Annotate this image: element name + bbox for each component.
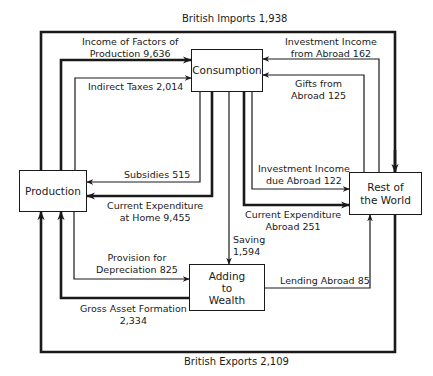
label-british-imports: British Imports 1,938: [182, 13, 287, 25]
node-production: Production: [19, 170, 87, 212]
node-rest-of-world-line2: the World: [360, 194, 411, 207]
node-adding-to-wealth: Adding to Wealth: [189, 264, 265, 311]
node-consumption-label: Consumption: [192, 64, 262, 77]
label-cea-line1: Current Expenditure: [245, 209, 341, 221]
label-gifts-line2: Abroad 125: [291, 90, 346, 102]
flow-investment-income-from-abroad: [263, 59, 379, 172]
label-ceh-line1: Current Expenditure: [107, 200, 203, 212]
label-cea-line2: Abroad 251: [245, 221, 341, 233]
label-saving: Saving 1,594: [233, 234, 265, 258]
node-adding-line3: Wealth: [209, 294, 245, 306]
label-iida-line2: due Abroad 122: [258, 175, 350, 187]
node-production-label: Production: [25, 185, 81, 198]
node-rest-of-world-line1: Rest of: [367, 181, 403, 194]
label-gaf-line2: 2,334: [80, 315, 187, 327]
node-adding-line2: to: [222, 282, 233, 294]
label-income-of-factors: Income of Factors of Production 9,636: [82, 36, 178, 60]
label-investment-income-due-abroad: Investment Income due Abroad 122: [258, 163, 350, 187]
label-ceh-line2: at Home 9,455: [107, 212, 203, 224]
node-consumption: Consumption: [191, 49, 263, 92]
node-adding-line1: Adding: [209, 270, 246, 282]
label-gifts-from-abroad: Gifts from Abroad 125: [291, 78, 346, 102]
label-current-expenditure-home: Current Expenditure at Home 9,455: [107, 200, 203, 224]
flow-current-expenditure-abroad: [244, 92, 349, 205]
label-pfd-line1: Provision for: [96, 252, 178, 264]
label-indirect-taxes: Indirect Taxes 2,014: [88, 81, 183, 93]
label-iifa-line1: Investment Income: [285, 36, 377, 48]
label-gifts-line1: Gifts from: [291, 78, 346, 90]
label-gross-asset-formation: Gross Asset Formation 2,334: [80, 303, 187, 327]
label-british-exports: British Exports 2,109: [184, 356, 289, 368]
label-saving-line2: 1,594: [233, 246, 265, 258]
label-saving-line1: Saving: [233, 234, 265, 246]
label-provision-for-depreciation: Provision for Depreciation 825: [96, 252, 178, 276]
label-investment-income-from-abroad: Investment Income from Abroad 162: [285, 36, 377, 60]
label-gaf-line1: Gross Asset Formation: [80, 303, 187, 315]
label-subsidies: Subsidies 515: [124, 169, 190, 181]
node-rest-of-world: Rest of the World: [349, 172, 422, 215]
label-iifa-line2: from Abroad 162: [285, 48, 377, 60]
label-pfd-line2: Depreciation 825: [96, 264, 178, 276]
label-income-of-factors-line2: Production 9,636: [82, 48, 178, 60]
flow-income-of-factors: [61, 60, 191, 170]
label-income-of-factors-line1: Income of Factors of: [82, 36, 178, 48]
label-iida-line1: Investment Income: [258, 163, 350, 175]
label-current-expenditure-abroad: Current Expenditure Abroad 251: [245, 209, 341, 233]
label-lending-abroad: Lending Abroad 85: [280, 275, 370, 287]
